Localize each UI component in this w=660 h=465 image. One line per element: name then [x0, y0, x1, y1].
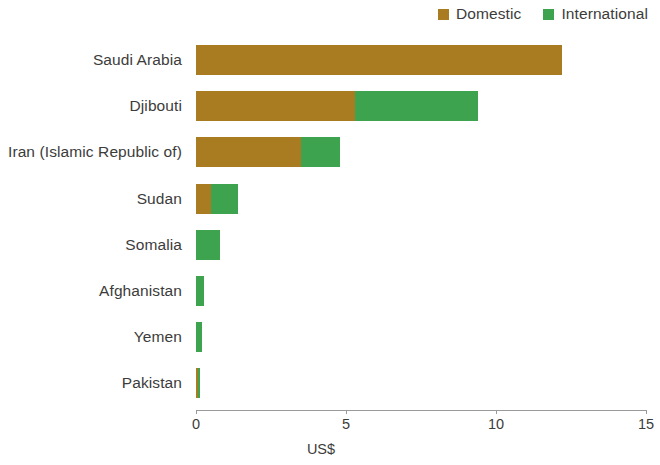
bar-segment-domestic: [196, 137, 301, 167]
y-axis-label: Iran (Islamic Republic of): [8, 144, 182, 160]
bar-segment-international: [355, 91, 478, 121]
bar-segment-international: [196, 276, 204, 306]
legend-swatch-international: [543, 9, 554, 20]
bar-segment-international: [196, 322, 202, 352]
x-axis-tick-mark: [346, 410, 347, 414]
bar-row: [196, 137, 340, 167]
bar-row: [196, 45, 562, 75]
y-axis-label: Pakistan: [122, 375, 182, 391]
x-axis-tick-label: 5: [342, 417, 350, 432]
bar-row: [196, 230, 220, 260]
bar-row: [196, 184, 238, 214]
bar-row: [196, 368, 200, 398]
x-axis-tick-label: 10: [488, 417, 504, 432]
chart-legend: Domestic International: [0, 2, 660, 26]
bar-segment-international: [301, 137, 340, 167]
y-axis-label: Somalia: [125, 237, 182, 253]
x-axis-title: US$: [0, 442, 660, 457]
y-axis-label: Afghanistan: [99, 283, 182, 299]
legend-label-domestic: Domestic: [456, 6, 521, 22]
legend-item-domestic: Domestic: [438, 6, 521, 22]
bar-segment-international: [198, 368, 200, 398]
x-axis-tick-mark: [196, 410, 197, 414]
bar-row: [196, 276, 204, 306]
y-axis-label: Saudi Arabia: [93, 52, 182, 68]
legend-label-international: International: [561, 6, 648, 22]
bar-segment-domestic: [196, 184, 211, 214]
legend-item-international: International: [543, 6, 648, 22]
x-axis-line: [196, 410, 646, 411]
bar-row: [196, 91, 478, 121]
x-axis-tick-label: 0: [192, 417, 200, 432]
bar-segment-international: [196, 230, 220, 260]
bar-row: [196, 322, 202, 352]
x-axis-tick-label: 15: [638, 417, 654, 432]
y-axis-category-labels: Saudi ArabiaDjiboutiIran (Islamic Republ…: [0, 28, 190, 410]
bar-segment-international: [211, 184, 238, 214]
bar-segment-domestic: [196, 45, 562, 75]
x-axis-tick-mark: [496, 410, 497, 414]
x-axis-tick-mark: [646, 410, 647, 414]
bar-chart-plot-area: Saudi ArabiaDjiboutiIran (Islamic Republ…: [0, 28, 660, 410]
bar-segment-domestic: [196, 91, 355, 121]
y-axis-label: Yemen: [134, 329, 182, 345]
legend-swatch-domestic: [438, 9, 449, 20]
bar-series-container: [196, 28, 660, 410]
x-axis-title-text: US$: [307, 441, 335, 457]
y-axis-label: Djibouti: [130, 98, 183, 114]
y-axis-label: Sudan: [137, 191, 182, 207]
